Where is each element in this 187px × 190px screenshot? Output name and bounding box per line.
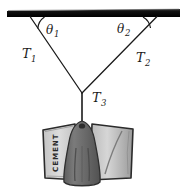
label-t2: T 2: [136, 50, 150, 68]
theta1-subscript: 1: [54, 29, 59, 39]
label-t3: T 3: [92, 90, 106, 108]
label-theta2: θ 2: [117, 22, 130, 38]
diagram-canvas: θ 1 θ 2 T 1 T 2 T 3: [0, 0, 187, 190]
theta2-symbol: θ: [117, 22, 125, 36]
label-theta1: θ 1: [46, 23, 59, 39]
cement-label: CEMENT: [51, 133, 60, 172]
label-t1: T 1: [22, 46, 36, 64]
theta1-symbol: θ: [46, 23, 54, 37]
theta2-subscript: 2: [124, 28, 130, 38]
ceiling-support-bar: [7, 9, 180, 17]
t1-subscript: 1: [31, 54, 36, 64]
t2-subscript: 2: [144, 58, 150, 68]
t3-subscript: 3: [101, 98, 106, 108]
cement-bag-text: CEMENT: [51, 133, 60, 172]
physics-diagram: θ 1 θ 2 T 1 T 2 T 3: [0, 0, 187, 190]
angle-arc-theta1: [38, 17, 45, 29]
